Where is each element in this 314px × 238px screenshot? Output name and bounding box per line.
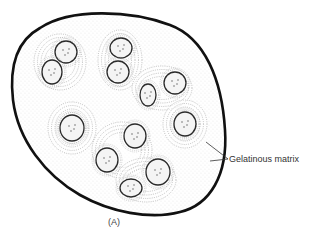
figure-caption: (A) [108, 217, 120, 227]
cell-granule [116, 74, 117, 75]
cell-granule [74, 124, 75, 125]
cell-granule [127, 185, 128, 186]
cell-granule [137, 132, 138, 133]
cell-granule [53, 72, 54, 73]
gelatinous-matrix-label: Gelatinous matrix [229, 154, 299, 164]
cell-granule [103, 157, 104, 158]
cell-granule [54, 68, 55, 69]
cell [110, 38, 132, 58]
cell [174, 112, 196, 136]
cell-granule [146, 97, 147, 98]
cell-granule [136, 136, 137, 137]
cell [140, 84, 156, 106]
cell-granule [108, 160, 109, 161]
cell-granule [68, 125, 69, 126]
colony-diagram [0, 0, 314, 238]
cell-granule [50, 74, 51, 75]
cell-granule [68, 48, 69, 49]
cell-granule [117, 45, 118, 46]
cell-granule [123, 44, 124, 45]
cell-granule [73, 128, 74, 129]
cell-granule [133, 184, 134, 185]
cell [146, 159, 170, 185]
cell-granule [119, 72, 120, 73]
cell-granule [171, 80, 172, 81]
cell [96, 148, 118, 172]
cell-granule [105, 162, 106, 163]
cell-granule [120, 68, 121, 69]
cell-granule [48, 69, 49, 70]
cell [120, 179, 142, 197]
cell-granule [144, 92, 145, 93]
cell-granule [173, 85, 174, 86]
cell [124, 124, 146, 148]
cell-granule [176, 83, 177, 84]
cell-granule [119, 50, 120, 51]
cell-granule [114, 69, 115, 70]
cell-granule [159, 172, 160, 173]
cell-granule [156, 174, 157, 175]
cell [42, 60, 62, 84]
cell-granule [133, 138, 134, 139]
cell [60, 115, 84, 141]
cell-granule [122, 48, 123, 49]
cell-granule [67, 52, 68, 53]
cell-granule [177, 79, 178, 80]
cell-granule [70, 130, 71, 131]
cell-granule [150, 91, 151, 92]
cell-granule [131, 133, 132, 134]
cell-granule [187, 120, 188, 121]
cell-granule [62, 49, 63, 50]
cell-granule [149, 95, 150, 96]
cell-granule [64, 54, 65, 55]
cell-granule [160, 168, 161, 169]
cell-granule [109, 156, 110, 157]
cell-granule [181, 121, 182, 122]
cell-granule [132, 188, 133, 189]
cell [107, 61, 129, 83]
cell-granule [183, 126, 184, 127]
cell-granule [154, 169, 155, 170]
cell-granule [186, 124, 187, 125]
cell-granule [129, 190, 130, 191]
cell [164, 72, 186, 94]
